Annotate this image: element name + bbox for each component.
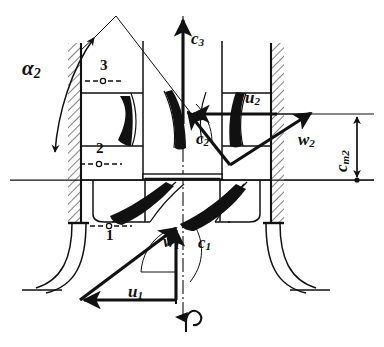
diffuser-vane-left	[118, 96, 133, 146]
label-w1: w1	[163, 233, 180, 252]
diffuser-vane-right	[229, 92, 245, 147]
label-w2: w2	[298, 131, 315, 150]
left-inlet-shroud	[22, 223, 89, 293]
station-marker-2	[80, 161, 122, 166]
label-c3: c3	[191, 30, 204, 49]
rotation-symbol	[175, 311, 201, 332]
label-station-1: 1	[106, 228, 114, 243]
label-c2: c2	[196, 130, 209, 149]
construction-lines	[81, 16, 374, 282]
cm2-dimension	[354, 117, 359, 183]
station-marker-3	[85, 78, 124, 83]
label-u2: u2	[245, 89, 260, 108]
left-outer-wall	[68, 43, 81, 223]
label-station-2: 2	[96, 141, 104, 156]
right-inlet-shroud	[263, 223, 330, 293]
label-c1: c1	[198, 234, 211, 253]
figure-container: α2 c3 c2 c1 u2 u1 w2 w1 cm2 3 2 1	[0, 0, 384, 347]
label-u1: u1	[128, 283, 143, 302]
diagram-canvas	[0, 0, 384, 347]
label-station-3: 3	[100, 58, 108, 73]
label-alpha2: α2	[22, 58, 41, 81]
impeller-hub-plate	[143, 174, 222, 179]
vane-outlines	[131, 91, 246, 148]
label-cm2: cm2	[333, 150, 352, 172]
